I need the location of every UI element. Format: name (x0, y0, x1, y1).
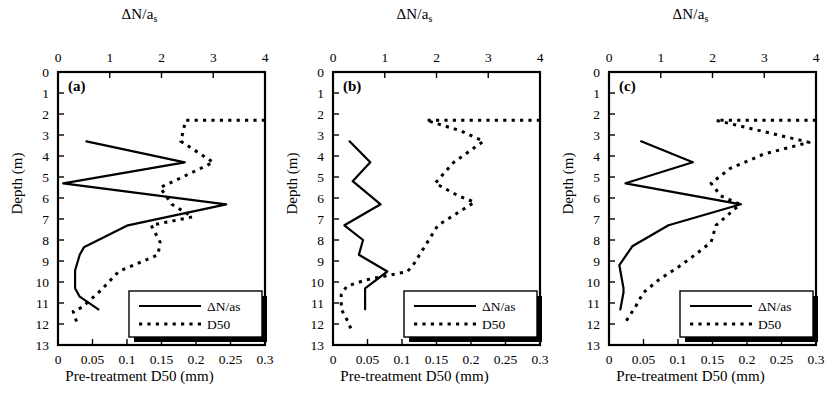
top-tick-label: 0 (606, 50, 613, 65)
bottom-tick-label: 0.2 (739, 352, 756, 367)
top-tick-label: 2 (158, 50, 165, 65)
top-tick-label: 2 (709, 50, 716, 65)
y-tick-label: 13 (36, 338, 50, 353)
bottom-tick-label: 0.05 (632, 352, 656, 367)
legend-label-delta-n: ΔN/as (207, 299, 240, 314)
y-tick-label: 7 (317, 212, 324, 227)
top-tick-label: 2 (433, 50, 440, 65)
figure-depth-profiles: ΔN/as 0123400.050.10.150.20.250.30123456… (0, 0, 838, 402)
bottom-tick-label: 0.05 (356, 352, 380, 367)
bottom-tick-label: 0.15 (150, 352, 174, 367)
y-tick-label: 8 (42, 233, 49, 248)
y-tick-label: 11 (36, 296, 49, 311)
bottom-tick-label: 0.1 (119, 352, 136, 367)
bottom-tick-label: 0.2 (188, 352, 205, 367)
y-tick-label: 11 (587, 296, 600, 311)
y-tick-label: 4 (317, 149, 324, 164)
top-tick-label: 4 (537, 50, 544, 65)
y-tick-label: 3 (317, 128, 324, 143)
legend-box (129, 291, 262, 337)
y-axis-title-c: Depth (m) (560, 129, 577, 239)
top-tick-label: 0 (55, 50, 62, 65)
y-tick-label: 9 (317, 254, 324, 269)
legend-label-d50: D50 (207, 317, 230, 332)
y-tick-label: 12 (36, 317, 50, 332)
y-tick-label: 0 (593, 65, 600, 80)
bottom-tick-label: 0.25 (494, 352, 518, 367)
y-tick-label: 6 (593, 191, 600, 206)
panel-label: (b) (343, 78, 361, 95)
y-tick-label: 0 (42, 65, 49, 80)
y-tick-label: 10 (587, 275, 601, 290)
y-tick-label: 9 (593, 254, 600, 269)
chart-panel-c: ΔN/as 0123400.050.10.150.20.250.30123456… (551, 0, 830, 402)
bottom-tick-label: 0.1 (394, 352, 411, 367)
y-tick-label: 6 (317, 191, 324, 206)
y-tick-label: 2 (317, 107, 324, 122)
y-tick-label: 1 (593, 86, 600, 101)
bottom-tick-label: 0.3 (532, 352, 549, 367)
chart-panel-b: ΔN/as 0123400.050.10.150.20.250.30123456… (275, 0, 554, 402)
top-tick-label: 3 (485, 50, 492, 65)
bottom-tick-label: 0 (330, 352, 337, 367)
top-tick-label: 0 (330, 50, 337, 65)
y-tick-label: 8 (593, 233, 600, 248)
y-tick-label: 6 (42, 191, 49, 206)
bottom-axis-title-c: Pre-treatment D50 (mm) (551, 368, 830, 385)
top-tick-label: 4 (813, 50, 820, 65)
bottom-tick-label: 0.25 (219, 352, 243, 367)
y-tick-label: 3 (593, 128, 600, 143)
top-tick-label: 1 (106, 50, 113, 65)
y-tick-label: 13 (311, 338, 325, 353)
top-tick-label: 4 (262, 50, 269, 65)
y-tick-label: 4 (593, 149, 600, 164)
legend-box (404, 291, 537, 337)
y-tick-label: 1 (317, 86, 324, 101)
y-tick-label: 1 (42, 86, 49, 101)
bottom-tick-label: 0.1 (670, 352, 687, 367)
legend-box (680, 291, 813, 337)
y-tick-label: 7 (593, 212, 600, 227)
y-tick-label: 2 (593, 107, 600, 122)
top-tick-label: 1 (657, 50, 664, 65)
y-tick-label: 8 (317, 233, 324, 248)
y-tick-label: 7 (42, 212, 49, 227)
bottom-tick-label: 0.2 (463, 352, 480, 367)
y-tick-label: 12 (311, 317, 325, 332)
y-tick-label: 5 (317, 170, 324, 185)
y-tick-label: 5 (42, 170, 49, 185)
bottom-tick-label: 0 (606, 352, 613, 367)
bottom-tick-label: 0.05 (81, 352, 105, 367)
top-tick-label: 3 (210, 50, 217, 65)
bottom-tick-label: 0.15 (701, 352, 725, 367)
chart-panel-a: ΔN/as 0123400.050.10.150.20.250.30123456… (0, 0, 279, 402)
bottom-tick-label: 0.3 (257, 352, 274, 367)
bottom-axis-title-b: Pre-treatment D50 (mm) (275, 368, 554, 385)
bottom-axis-title-a: Pre-treatment D50 (mm) (0, 368, 279, 385)
legend-label-delta-n: ΔN/as (482, 299, 515, 314)
y-tick-label: 13 (587, 338, 601, 353)
y-tick-label: 5 (593, 170, 600, 185)
y-tick-label: 3 (42, 128, 49, 143)
top-tick-label: 3 (761, 50, 768, 65)
y-tick-label: 10 (36, 275, 50, 290)
legend-label-d50: D50 (758, 317, 781, 332)
panel-label: (c) (619, 78, 636, 95)
plot-area-b: 0123400.050.10.150.20.250.30123456789101… (275, 0, 554, 402)
y-tick-label: 10 (311, 275, 325, 290)
y-tick-label: 11 (311, 296, 324, 311)
y-tick-label: 0 (317, 65, 324, 80)
legend-label-delta-n: ΔN/as (758, 299, 791, 314)
bottom-tick-label: 0.3 (808, 352, 825, 367)
top-tick-label: 1 (381, 50, 388, 65)
y-tick-label: 2 (42, 107, 49, 122)
panel-label: (a) (68, 78, 86, 95)
y-axis-title-a: Depth (m) (9, 129, 26, 239)
y-tick-label: 4 (42, 149, 49, 164)
plot-area-a: 0123400.050.10.150.20.250.30123456789101… (0, 0, 279, 402)
bottom-tick-label: 0.25 (770, 352, 794, 367)
bottom-tick-label: 0 (55, 352, 62, 367)
bottom-tick-label: 0.15 (425, 352, 449, 367)
plot-area-c: 0123400.050.10.150.20.250.30123456789101… (551, 0, 830, 402)
series-line-delta-n (619, 141, 741, 309)
